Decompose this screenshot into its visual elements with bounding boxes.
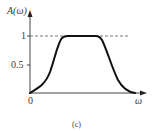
figure-caption: (c)	[72, 120, 81, 130]
y-axis-label: A(ω)	[7, 6, 27, 16]
y-tick-label-1: 1	[21, 31, 26, 41]
y-tick-label-0.5: 0.5	[11, 60, 24, 70]
y-axis-arrow-icon	[28, 10, 33, 17]
amplitude-curve	[30, 36, 135, 93]
origin-label: 0	[28, 96, 33, 106]
x-axis-label: ω	[135, 96, 142, 106]
